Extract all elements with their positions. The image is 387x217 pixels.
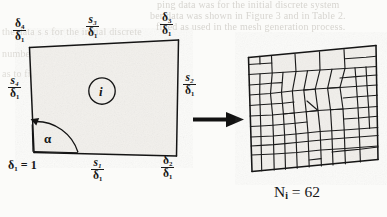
s1-numerator: s₁ [93,156,102,168]
figure-artwork [0,0,387,217]
label-delta2-over-delta1: δ₂ δ₁ [161,155,174,180]
node-count-value: 62 [304,183,320,200]
node-count-symbol: N [274,183,285,200]
s4-numerator: s₄ [10,74,19,86]
base-length-label: δ₁ = 1 [8,158,37,173]
node-count-equals: = [292,183,301,200]
delta1-denominator-bm: δ₁ [93,169,102,181]
delta1-denominator-lm: δ₁ [10,87,19,99]
delta4-numerator: δ₄ [15,17,24,29]
label-delta4-over-delta1: δ₄ δ₁ [13,18,26,43]
label-s1-over-delta1: s₁ δ₁ [91,157,104,182]
label-s3-over-delta1: s₃ δ₁ [86,14,99,39]
label-delta3-over-delta1: δ₃ δ₁ [160,12,173,37]
delta3-numerator: δ₃ [162,11,171,23]
figure-page: ping data was for the initial discrete s… [0,0,387,217]
delta1-denominator-br: δ₁ [163,167,172,179]
delta2-numerator: δ₂ [163,154,172,166]
delta1-denominator-tr: δ₁ [162,24,171,36]
node-count-subscript: i [285,190,288,201]
angle-alpha-label: α [44,131,51,147]
label-s2-over-delta1: s₂ δ₁ [183,72,196,97]
node-count-caption: Ni = 62 [274,183,320,201]
mesh-region [248,45,378,172]
delta1-denominator-tm: δ₁ [88,26,97,38]
label-s4-over-delta1: s₄ δ₁ [8,75,21,100]
delta1-denominator-rm: δ₁ [185,84,194,96]
delta1-denominator-tl: δ₁ [15,30,24,42]
s2-numerator: s₂ [185,71,194,83]
mapping-arrow [193,112,244,127]
element-index-label: i [99,84,103,100]
reference-quadrilateral [30,40,179,156]
s3-numerator: s₃ [88,13,97,25]
